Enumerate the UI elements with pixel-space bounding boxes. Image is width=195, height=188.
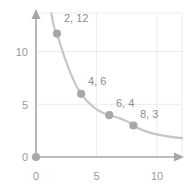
data-point-2[interactable]: [77, 90, 85, 98]
x-tick-label-0: 0: [33, 170, 39, 182]
x-axis-tick-labels: 0 5 10: [33, 170, 163, 182]
y-tick-label-5: 5: [22, 99, 28, 111]
data-point-label-1: 2, 12: [64, 12, 88, 24]
x-tick-label-5: 5: [93, 170, 99, 182]
data-point-1[interactable]: [53, 29, 61, 37]
data-point-label-2: 4, 6: [88, 75, 106, 87]
inverse-proportion-chart: 2, 12 4, 6 6, 4 8, 3 10 5 0 0 5 10: [0, 0, 195, 188]
origin-marker[interactable]: [32, 153, 40, 161]
y-tick-label-0: 0: [22, 151, 28, 163]
data-point-label-4: 8, 3: [140, 108, 158, 120]
y-axis-tick-labels: 10 5 0: [16, 46, 28, 163]
data-point-4[interactable]: [129, 121, 137, 129]
y-tick-label-10: 10: [16, 46, 28, 58]
chart-container: 2, 12 4, 6 6, 4 8, 3 10 5 0 0 5 10: [0, 0, 195, 188]
data-point-3[interactable]: [105, 111, 113, 119]
x-tick-label-10: 10: [151, 170, 163, 182]
data-point-label-3: 6, 4: [116, 97, 134, 109]
